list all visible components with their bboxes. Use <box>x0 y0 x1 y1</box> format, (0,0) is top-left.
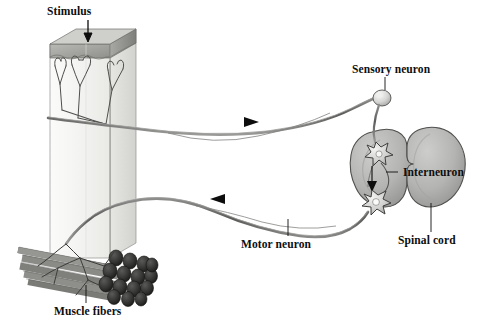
label-interneuron: Interneuron <box>403 167 464 179</box>
muscle-fiber-cut-ends <box>99 250 158 307</box>
reflex-arc-figure: Stimulus Sensory neuron Interneuron Spin… <box>0 0 491 326</box>
label-stimulus: Stimulus <box>47 6 91 18</box>
motor-direction-arrow <box>210 194 225 204</box>
label-spinal-cord: Spinal cord <box>398 235 456 247</box>
label-muscle-fibers: Muscle fibers <box>54 306 121 318</box>
label-motor-neuron: Motor neuron <box>241 239 311 251</box>
label-sensory-neuron: Sensory neuron <box>352 64 430 76</box>
reflex-arc-illustration <box>0 0 491 326</box>
sensory-direction-arrow <box>244 117 259 127</box>
